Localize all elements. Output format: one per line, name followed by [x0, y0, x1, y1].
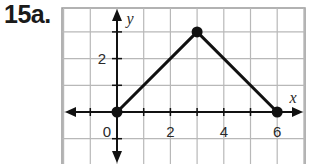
- data-point: [192, 26, 203, 37]
- grid-lines: [62, 8, 305, 164]
- x-tick-label: 4: [220, 123, 228, 140]
- data-point: [272, 107, 283, 118]
- y-axis-label: y: [124, 10, 134, 28]
- coordinate-plane: 02462xy: [0, 0, 315, 164]
- x-tick-label: 2: [166, 123, 174, 140]
- y-axis-down-arrow-icon: [112, 151, 122, 163]
- y-axis-up-arrow-icon: [112, 9, 122, 21]
- x-tick-label: 0: [103, 123, 111, 140]
- y-tick-label: 2: [98, 50, 106, 67]
- data-point: [112, 107, 123, 118]
- x-axis-label: x: [288, 89, 296, 106]
- x-axis-left-arrow-icon: [65, 107, 76, 117]
- x-axis-right-arrow-icon: [292, 107, 303, 117]
- x-tick-label: 6: [273, 123, 281, 140]
